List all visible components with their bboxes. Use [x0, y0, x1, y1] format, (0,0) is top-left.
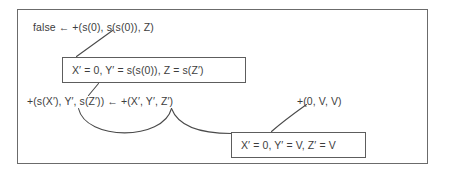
resolution-derivation-figure: false ← +(s(0), s(s(0)), Z) X′ = 0, Y′ =…: [0, 0, 449, 180]
lower-substitution-box: X′ = 0, Y′ = V, Z′ = V: [231, 132, 366, 158]
upper-substitution-box: X′ = 0, Y′ = s(s(0)), Z = s(Z′): [62, 57, 246, 83]
recursive-rule-clause: +(s(X′), Y′, s(Z′)) ← +(X′, Y′, Z′): [27, 95, 173, 108]
goal-clause: false ← +(s(0), s(s(0)), Z): [33, 21, 154, 34]
base-fact-clause: +(0, V, V): [297, 95, 342, 108]
upper-substitution-text: X′ = 0, Y′ = s(s(0)), Z = s(Z′): [72, 64, 204, 77]
lower-substitution-text: X′ = 0, Y′ = V, Z′ = V: [241, 139, 336, 152]
